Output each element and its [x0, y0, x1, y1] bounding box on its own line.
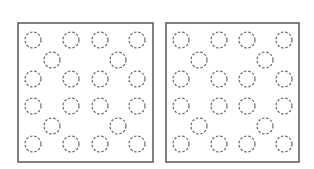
dashed-circle	[173, 98, 189, 114]
dashed-circle	[173, 136, 189, 152]
dashed-circle	[63, 32, 79, 48]
dashed-circle	[92, 32, 108, 48]
dashed-circle	[276, 98, 292, 114]
dashed-circle	[25, 71, 41, 87]
dashed-circle	[173, 32, 189, 48]
right-panel	[166, 23, 299, 162]
dashed-circle	[276, 71, 292, 87]
diagram-canvas	[0, 0, 314, 169]
dashed-circle	[110, 52, 126, 68]
dashed-circle	[129, 32, 145, 48]
dashed-circle	[211, 32, 227, 48]
panel-frame	[18, 23, 153, 162]
dashed-circle	[25, 136, 41, 152]
dashed-circle	[63, 136, 79, 152]
dashed-circle	[239, 71, 255, 87]
dashed-circle	[191, 118, 207, 134]
dashed-circle	[239, 98, 255, 114]
dashed-circle	[92, 98, 108, 114]
dashed-circle	[257, 52, 273, 68]
dashed-circle	[63, 98, 79, 114]
dashed-circle	[239, 32, 255, 48]
dashed-circle	[129, 98, 145, 114]
dashed-circle	[110, 118, 126, 134]
dashed-circle	[257, 118, 273, 134]
left-panel	[18, 23, 153, 162]
dashed-circle	[239, 136, 255, 152]
dashed-circle	[276, 136, 292, 152]
dashed-circle	[63, 71, 79, 87]
panel-frame	[166, 23, 299, 162]
dashed-circle	[44, 118, 60, 134]
dashed-circle	[25, 32, 41, 48]
dashed-circle	[92, 71, 108, 87]
dashed-circle	[191, 52, 207, 68]
dashed-circle	[44, 52, 60, 68]
dashed-circle	[211, 98, 227, 114]
dashed-circle	[25, 98, 41, 114]
dashed-circle	[211, 136, 227, 152]
dashed-circle	[173, 71, 189, 87]
dashed-circle	[92, 136, 108, 152]
dashed-circle	[129, 71, 145, 87]
dashed-circle	[129, 136, 145, 152]
dashed-circle	[211, 71, 227, 87]
dashed-circle	[276, 32, 292, 48]
